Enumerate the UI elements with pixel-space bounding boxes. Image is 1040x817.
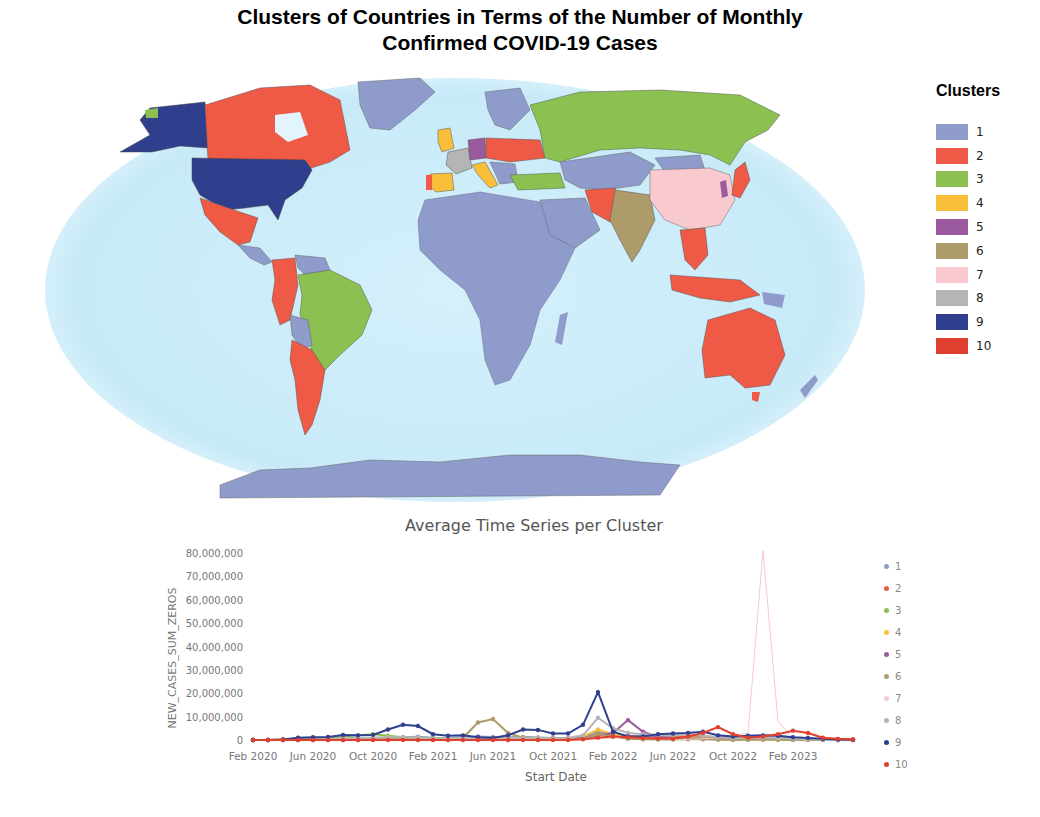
legend-label: 2 bbox=[895, 583, 901, 594]
chart-legend-item[interactable]: 10 bbox=[884, 753, 908, 775]
x-tick-label: Oct 2020 bbox=[349, 750, 397, 762]
chart-legend-item[interactable]: 9 bbox=[884, 731, 908, 753]
x-tick-label: Jun 2021 bbox=[469, 750, 516, 762]
map-legend-item: 10 bbox=[936, 334, 1036, 358]
map-legend-item: 6 bbox=[936, 239, 1036, 263]
legend-label: 8 bbox=[895, 715, 901, 726]
legend-marker-icon bbox=[884, 740, 889, 745]
legend-label: 5 bbox=[976, 220, 984, 234]
chart-legend-item[interactable]: 5 bbox=[884, 643, 908, 665]
x-axis: Feb 2020Jun 2020Oct 2020Feb 2021Jun 2021… bbox=[229, 750, 818, 762]
map-legend-item: 1 bbox=[936, 120, 1036, 144]
map-legend-title: Clusters bbox=[936, 82, 1036, 100]
x-tick-label: Oct 2021 bbox=[529, 750, 577, 762]
y-tick-label: 20,000,000 bbox=[186, 688, 243, 699]
chart-legend-item[interactable]: 1 bbox=[884, 555, 908, 577]
y-tick-label: 60,000,000 bbox=[186, 595, 243, 606]
chart-title: Average Time Series per Cluster bbox=[0, 516, 1040, 535]
x-tick-label: Oct 2022 bbox=[709, 750, 757, 762]
legend-marker-icon bbox=[884, 762, 889, 767]
legend-label: 4 bbox=[895, 627, 901, 638]
legend-marker-icon bbox=[884, 696, 889, 701]
map-legend-item: 7 bbox=[936, 263, 1036, 287]
region-australia bbox=[702, 308, 785, 388]
legend-label: 10 bbox=[895, 759, 908, 770]
y-tick-label: 50,000,000 bbox=[186, 618, 243, 629]
y-axis-label: NEW_CASES_SUM_ZEROS bbox=[166, 588, 179, 729]
legend-label: 9 bbox=[895, 737, 901, 748]
region-eastern-europe bbox=[486, 138, 545, 162]
map-legend-item: 8 bbox=[936, 287, 1036, 311]
chart-legend-item[interactable]: 2 bbox=[884, 577, 908, 599]
chart-legend-item[interactable]: 7 bbox=[884, 687, 908, 709]
y-tick-label: 70,000,000 bbox=[186, 571, 243, 582]
legend-swatch bbox=[936, 338, 968, 354]
legend-marker-icon bbox=[884, 608, 889, 613]
legend-label: 3 bbox=[895, 605, 901, 616]
y-tick-label: 30,000,000 bbox=[186, 665, 243, 676]
legend-swatch bbox=[936, 219, 968, 235]
x-tick-label: Feb 2021 bbox=[409, 750, 458, 762]
legend-label: 3 bbox=[976, 172, 984, 186]
x-axis-label: Start Date bbox=[525, 770, 587, 784]
legend-label: 10 bbox=[976, 339, 991, 353]
world-map bbox=[40, 70, 870, 510]
x-tick-label: Feb 2020 bbox=[229, 750, 278, 762]
legend-marker-icon bbox=[884, 586, 889, 591]
series-lines bbox=[251, 551, 855, 743]
legend-marker-icon bbox=[884, 564, 889, 569]
chart-legend-item[interactable]: 6 bbox=[884, 665, 908, 687]
legend-swatch bbox=[936, 124, 968, 140]
y-tick-label: 0 bbox=[237, 735, 243, 746]
time-series-chart: 010,000,00020,000,00030,000,00040,000,00… bbox=[0, 540, 880, 800]
legend-label: 5 bbox=[895, 649, 901, 660]
legend-marker-icon bbox=[884, 630, 889, 635]
legend-marker-icon bbox=[884, 718, 889, 723]
legend-label: 2 bbox=[976, 149, 984, 163]
legend-swatch bbox=[936, 314, 968, 330]
y-tick-label: 80,000,000 bbox=[186, 548, 243, 559]
legend-label: 6 bbox=[895, 671, 901, 682]
x-tick-label: Jun 2022 bbox=[649, 750, 696, 762]
legend-swatch bbox=[936, 267, 968, 283]
legend-label: 1 bbox=[976, 125, 984, 139]
region-small-island-nw bbox=[145, 108, 158, 118]
map-legend-item: 5 bbox=[936, 215, 1036, 239]
chart-legend-item[interactable]: 4 bbox=[884, 621, 908, 643]
chart-legend: 12345678910 bbox=[884, 555, 908, 775]
main-title: Clusters of Countries in Terms of the Nu… bbox=[0, 4, 1040, 56]
chart-legend-item[interactable]: 8 bbox=[884, 709, 908, 731]
y-axis: 010,000,00020,000,00030,000,00040,000,00… bbox=[186, 548, 243, 746]
legend-label: 8 bbox=[976, 291, 984, 305]
y-tick-label: 10,000,000 bbox=[186, 712, 243, 723]
world-map-svg bbox=[40, 70, 870, 510]
region-germany bbox=[468, 138, 486, 160]
main-title-line1: Clusters of Countries in Terms of the Nu… bbox=[0, 4, 1040, 30]
map-legend: Clusters 12345678910 bbox=[936, 82, 1036, 358]
map-legend-item: 4 bbox=[936, 191, 1036, 215]
region-turkey bbox=[510, 173, 565, 190]
legend-label: 7 bbox=[976, 268, 984, 282]
legend-swatch bbox=[936, 290, 968, 306]
legend-swatch bbox=[936, 148, 968, 164]
map-legend-item: 2 bbox=[936, 144, 1036, 168]
legend-marker-icon bbox=[884, 652, 889, 657]
legend-label: 1 bbox=[895, 561, 901, 572]
legend-marker-icon bbox=[884, 674, 889, 679]
legend-swatch bbox=[936, 171, 968, 187]
series-cluster-9[interactable] bbox=[251, 690, 855, 742]
legend-label: 6 bbox=[976, 244, 984, 258]
x-tick-label: Feb 2023 bbox=[769, 750, 818, 762]
legend-label: 4 bbox=[976, 196, 984, 210]
legend-swatch bbox=[936, 195, 968, 211]
map-legend-item: 3 bbox=[936, 168, 1036, 192]
legend-label: 7 bbox=[895, 693, 901, 704]
x-tick-label: Jun 2020 bbox=[289, 750, 336, 762]
chart-legend-item[interactable]: 3 bbox=[884, 599, 908, 621]
x-tick-label: Feb 2022 bbox=[589, 750, 638, 762]
legend-swatch bbox=[936, 243, 968, 259]
series-cluster-7[interactable] bbox=[253, 551, 853, 740]
region-portugal bbox=[426, 175, 432, 190]
main-title-line2: Confirmed COVID-19 Cases bbox=[0, 30, 1040, 56]
region-alaska bbox=[120, 102, 208, 152]
